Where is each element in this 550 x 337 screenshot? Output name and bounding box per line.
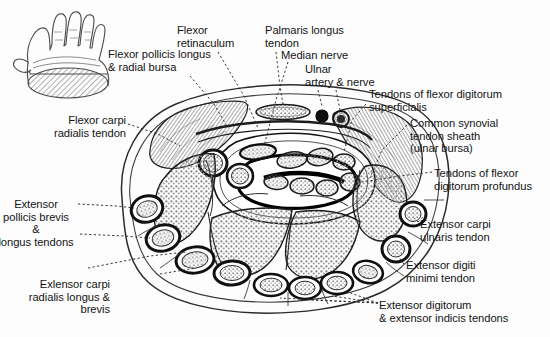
palmaris-longus-tendon-structure — [256, 105, 310, 120]
label-median-nerve: Median nerve — [281, 49, 348, 62]
label-extensor-pollicis-brevis-and-longus-tendons: Extensor pollicis brevis & longus tendon… — [0, 198, 80, 248]
label-ulnar-artery-and-nerve: Ulnar artery & nerve — [305, 63, 375, 88]
label-flexor-retinaculum: Flexor retinaculum — [177, 24, 234, 49]
wrist-cross-section — [121, 85, 448, 313]
extensor-carpi-radialis-brevis-tendon — [213, 260, 250, 286]
hand-orientation-key — [13, 12, 108, 98]
label-tendons-flexor-digitorum-superficialis: Tendons of flexor digitorum superficiali… — [369, 88, 502, 113]
label-flexor-pollicis-longus: Flexor pollicis longus & radial bursa — [108, 48, 211, 73]
flexor-pollicis-longus-tendon-structure — [227, 164, 253, 188]
label-flexor-carpi-radialis-tendon: Flexor carpi radialis tendon — [32, 114, 126, 139]
label-palmaris-longus-tendon: Palmaris longus tendon — [265, 24, 344, 49]
label-extensor-carpi-ulnaris-tendon: Extensor carpi ulnaris tendon — [420, 218, 491, 243]
label-common-synovial-tendon-sheath: Common synovial tendon sheath (ulnar bur… — [410, 117, 498, 155]
section-level-marker — [28, 68, 108, 98]
label-extensor-digitorum-and-indicis-tendons: Extensor digitorum & extensor indicis te… — [379, 299, 508, 324]
label-extensor-digiti-minimi-tendon: Extensor digiti minimi tendon — [406, 259, 476, 284]
label-extensor-carpi-radialis-longus-and-brevis: Exlensor carpi radialis longus & brevis — [0, 278, 110, 316]
figure-container: Flexor pollicis longus & radial bursa Fl… — [0, 0, 550, 337]
label-tendons-flexor-digitorum-profundus: Tendons of flexor digitorum profundus — [434, 167, 532, 192]
